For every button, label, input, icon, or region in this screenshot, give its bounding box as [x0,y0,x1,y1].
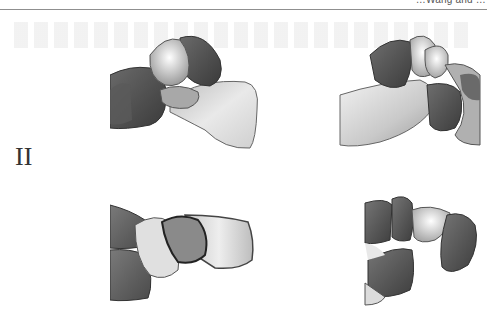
bone-render-top-left [110,30,280,160]
running-head: …Wang and … [416,0,486,5]
bone-render-bottom-left [110,200,280,325]
bone-render-bottom-right [350,185,500,325]
bone-render-top-right [330,30,500,160]
row-label: II [15,142,32,172]
header-rule [0,9,487,10]
